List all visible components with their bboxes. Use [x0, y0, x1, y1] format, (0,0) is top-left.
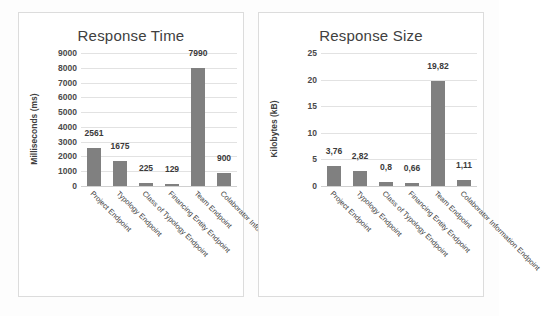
chart-title-response-time: Response Time	[19, 27, 243, 44]
bar-value-label: 1,11	[456, 160, 472, 170]
plot-area-response-size: 0510152025 3,762,820,80,6619,821,11	[321, 53, 477, 186]
bar-slot: 2561	[81, 53, 107, 186]
bar[interactable]	[87, 148, 102, 186]
bar[interactable]	[353, 171, 368, 186]
bar-value-label: 19,82	[427, 61, 448, 71]
gridline: 0	[81, 186, 237, 187]
category-labels-response-time: Project EndpointTypology EndpointClass o…	[81, 189, 237, 307]
bar-slot: 900	[211, 53, 237, 186]
bar-slot: 3,76	[321, 53, 347, 186]
y-axis-tick-label: 9000	[58, 48, 77, 58]
y-axis-tick-label: 10	[308, 128, 317, 138]
y-axis-tick-label: 20	[308, 75, 317, 85]
bar-slot: 7990	[185, 53, 211, 186]
bar[interactable]	[113, 161, 128, 186]
bar-value-label: 0,8	[380, 162, 392, 172]
y-axis-tick-label: 4000	[58, 122, 77, 132]
bar-slot: 0,66	[399, 53, 425, 186]
y-axis-tick-label: 7000	[58, 78, 77, 88]
category-labels-response-size: Project EndpointTypology EndpointClass o…	[321, 189, 477, 307]
chart-response-size: Response Size Kilobytes (kB) 0510152025 …	[258, 12, 484, 297]
x-axis-category-label: Typology Endpoint	[114, 189, 163, 238]
y-axis-tick-label: 15	[308, 101, 317, 111]
bar-value-label: 225	[139, 163, 153, 173]
bars-response-time: 256116752251297990900	[81, 53, 237, 186]
bar[interactable]	[165, 184, 180, 186]
bar[interactable]	[139, 183, 154, 186]
y-axis-tick-label: 6000	[58, 92, 77, 102]
bar-value-label: 900	[217, 153, 231, 163]
bar-value-label: 2,82	[352, 151, 369, 161]
bar-value-label: 0,66	[404, 163, 421, 173]
x-axis-category-label: Typology Endpoint	[354, 189, 403, 238]
y-axis-tick-label: 8000	[58, 63, 77, 73]
bar-value-label: 2561	[85, 128, 104, 138]
bar-value-label: 129	[165, 164, 179, 174]
y-axis-tick-label: 0	[72, 181, 77, 191]
y-axis-tick-label: 5	[312, 154, 317, 164]
plot-area-response-time: 0100020003000400050006000700080009000 25…	[81, 53, 237, 186]
y-axis-title-response-size: Kilobytes (kB)	[267, 61, 281, 197]
bar[interactable]	[217, 173, 232, 186]
bar[interactable]	[457, 180, 472, 186]
y-axis-tick-label: 2000	[58, 151, 77, 161]
chart-title-response-size: Response Size	[259, 27, 483, 44]
bar-slot: 225	[133, 53, 159, 186]
bar[interactable]	[405, 183, 420, 187]
y-axis-title-text: Milliseconds (ms)	[29, 93, 39, 164]
bar-slot: 1675	[107, 53, 133, 186]
bar-value-label: 1675	[111, 141, 130, 151]
chart-response-time: Response Time Milliseconds (ms) 01000200…	[18, 12, 244, 297]
bar[interactable]	[327, 166, 342, 186]
y-axis-title-response-time: Milliseconds (ms)	[27, 61, 41, 197]
y-axis-tick-label: 1000	[58, 166, 77, 176]
bar[interactable]	[379, 182, 394, 186]
bar[interactable]	[431, 81, 446, 186]
y-axis-tick-label: 0	[312, 181, 317, 191]
bar[interactable]	[191, 68, 206, 186]
y-axis-tick-label: 5000	[58, 107, 77, 117]
bar-slot: 0,8	[373, 53, 399, 186]
bar-slot: 19,82	[425, 53, 451, 186]
bar-slot: 129	[159, 53, 185, 186]
bars-response-size: 3,762,820,80,6619,821,11	[321, 53, 477, 186]
y-axis-tick-label: 25	[308, 48, 317, 58]
y-axis-title-text: Kilobytes (kB)	[269, 100, 279, 157]
gridline: 0	[321, 186, 477, 187]
x-axis-category-label: Colaborator Information Endpoint	[458, 189, 541, 272]
y-axis-tick-label: 3000	[58, 137, 77, 147]
bar-slot: 1,11	[451, 53, 477, 186]
bar-slot: 2,82	[347, 53, 373, 186]
bar-value-label: 7990	[189, 48, 208, 58]
bar-value-label: 3,76	[326, 146, 343, 156]
